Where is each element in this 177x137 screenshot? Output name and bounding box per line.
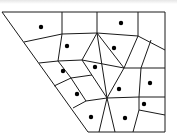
generator-point [148,81,152,85]
generator-point [119,21,123,25]
generator-point [117,87,121,91]
cell-edge [133,110,139,132]
cell-edge [97,33,107,98]
generator-point [142,102,146,106]
generator-point [39,25,43,29]
cell-edge [107,97,165,98]
cell-edge [139,68,141,97]
generator-point [65,44,69,48]
cell-edge [71,78,86,101]
cell-edge [73,98,107,108]
cell-edge [141,40,151,68]
generator-point [61,69,65,73]
cell-edge [99,98,107,132]
generator-point [93,65,97,69]
generator-point [112,46,116,50]
generator-point [89,115,93,119]
generator-point [75,92,79,96]
cell-edge [58,34,62,61]
cell-edge [139,97,165,115]
cell-edge [82,33,97,60]
cell-edge [97,33,124,68]
cell-edge [124,36,138,68]
generator-point [123,116,127,120]
cell-edge [24,33,165,50]
voronoi-diagram [0,0,177,137]
cell-edge [107,68,124,98]
cell-edge [107,98,115,132]
